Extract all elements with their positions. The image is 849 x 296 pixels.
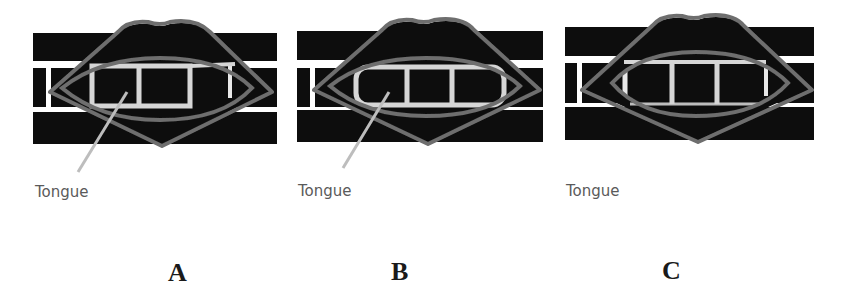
panel-letter-c: C xyxy=(662,256,681,286)
panel-c xyxy=(565,15,814,142)
tongue-label-a: Tongue xyxy=(35,183,89,201)
middle-bar-left xyxy=(33,68,46,107)
panel-a xyxy=(33,21,277,172)
panel-b xyxy=(297,19,543,168)
mouth-diagram-figure: Tongue Tongue Tongue A B C xyxy=(0,0,849,296)
panel-letter-b: B xyxy=(391,257,408,287)
diagram-graphics xyxy=(0,0,849,296)
panel-letter-a: A xyxy=(168,258,187,288)
tongue-label-b: Tongue xyxy=(298,182,352,200)
tongue-label-c: Tongue xyxy=(566,182,620,200)
middle-bar-left xyxy=(565,63,577,103)
middle-bar-left xyxy=(297,68,310,107)
